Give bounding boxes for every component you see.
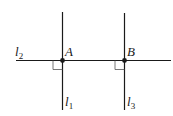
- label-point-b: B: [127, 44, 135, 59]
- label-l2: l2: [15, 44, 23, 61]
- perpendicular-lines-diagram: l2 A B l1 l3: [0, 0, 173, 116]
- label-l1: l1: [65, 94, 73, 111]
- label-l3: l3: [127, 94, 136, 111]
- label-point-a: A: [64, 44, 73, 59]
